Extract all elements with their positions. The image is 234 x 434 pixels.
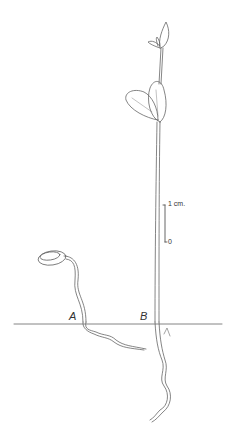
- label-seedling-b: B: [140, 310, 147, 322]
- scale-bar: [163, 205, 167, 242]
- seedling-a: [37, 249, 146, 350]
- scale-top-label: 1 cm.: [168, 200, 185, 207]
- seedling-b: [126, 22, 171, 422]
- scale-bottom-label: 0: [168, 238, 172, 245]
- seedling-drawing: [0, 0, 234, 434]
- label-seedling-a: A: [69, 310, 76, 322]
